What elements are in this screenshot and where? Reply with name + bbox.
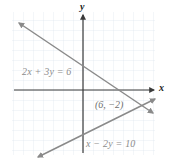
y-axis-label: y — [80, 1, 84, 12]
equation-label-line-2: x − 2y = 10 — [86, 138, 136, 149]
graph-figure: 2x + 3y = 6 x − 2y = 10 (6, −2) x y — [0, 0, 171, 167]
equation-label-line-1: 2x + 3y = 6 — [22, 66, 72, 77]
intersection-point-label: (6, −2) — [95, 99, 123, 110]
x-axis-label: x — [159, 82, 164, 93]
